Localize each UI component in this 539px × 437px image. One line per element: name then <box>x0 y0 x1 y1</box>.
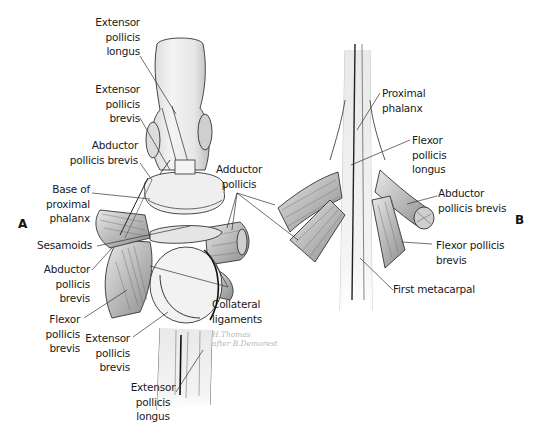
label-abductor-pollicis-brevis-top: Abductor pollicis brevis <box>50 138 138 167</box>
label-flexor-pollicis-brevis-b: Flexor pollicis brevis <box>436 238 504 267</box>
leader-adductor-3 <box>237 193 275 205</box>
panel-label-a: A <box>18 217 27 231</box>
apb-muscle-a <box>105 240 152 318</box>
label-proximal-phalanx: Proximal phalanx <box>382 86 425 115</box>
label-extensor-pollicis-longus-top: Extensor pollicis longus <box>80 15 140 59</box>
label-first-metacarpal: First metacarpal <box>393 282 475 297</box>
label-extensor-pollicis-brevis-top: Extensor pollicis brevis <box>80 82 140 126</box>
panel-label-b: B <box>515 213 524 227</box>
label-collateral-ligaments: Collateral ligaments <box>212 297 262 326</box>
leader-apb-top <box>140 163 152 180</box>
leader-fpb-b <box>402 242 432 244</box>
proximal-phalanx-a <box>152 38 209 170</box>
leader-base-phalanx <box>92 193 150 199</box>
artist-signature: H.Thomas after B.Demorest <box>212 330 278 348</box>
label-flexor-pollicis-brevis-a: Flexor pollicis brevis <box>30 312 80 356</box>
label-adductor-pollicis: Adductor pollicis <box>208 162 270 191</box>
label-base-of-proximal-phalanx: Base of proximal phalanx <box>30 182 90 226</box>
label-extensor-pollicis-longus-bottom: Extensor pollicis longus <box>125 380 181 424</box>
panel-b-drawing <box>278 44 434 310</box>
label-extensor-pollicis-brevis-bottom: Extensor pollicis brevis <box>82 331 130 375</box>
label-abductor-pollicis-brevis-bottom: Abductor pollicis brevis <box>30 262 90 306</box>
label-flexor-pollicis-longus: Flexor pollicis longus <box>412 133 446 177</box>
label-abductor-pollicis-brevis-b: Abductor pollicis brevis <box>438 186 506 215</box>
label-sesamoids: Sesamoids <box>30 238 92 253</box>
